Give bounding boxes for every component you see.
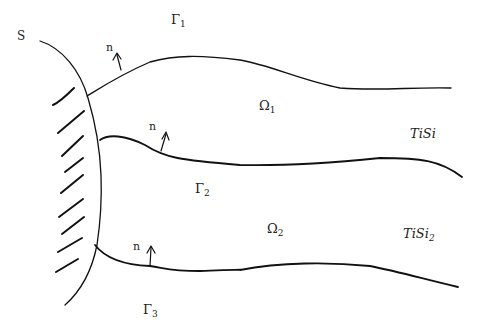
normal-arrow-mid [161,132,169,151]
label-gamma3: Γ3 [143,302,158,319]
label-gamma1: Γ1 [171,12,186,29]
label-normal-bottom: n [133,240,140,253]
normal-arrow-bottom [147,246,155,266]
label-tisi: TiSi [410,126,436,141]
normal-arrow-top [113,53,121,70]
curve-gamma2 [100,136,462,177]
label-omega1: Ω1 [259,98,276,115]
label-normal-top: n [106,41,113,54]
substrate-boundary-s [40,41,101,305]
label-omega2: Ω2 [267,221,284,238]
label-gamma2: Γ2 [195,181,210,198]
substrate-hatching [53,88,84,272]
label-tisi2: TiSi2 [403,226,435,243]
diagram-canvas: S Γ1 n n n Ω1 TiSi Γ2 Ω2 TiSi2 Γ3 [0,0,483,334]
label-normal-mid: n [149,120,156,133]
label-s: S [17,29,25,43]
curve-gamma1 [87,56,451,96]
